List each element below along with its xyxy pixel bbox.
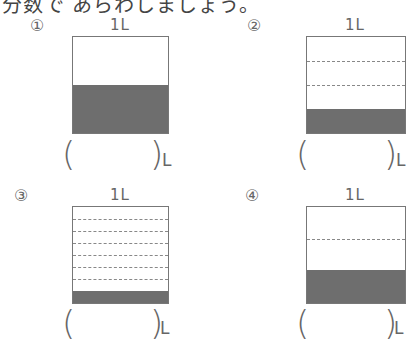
division-line	[307, 61, 405, 62]
division-line	[73, 267, 168, 268]
problem-number: ②	[247, 16, 261, 35]
unit: L	[394, 320, 403, 337]
unit: L	[396, 152, 405, 169]
open-paren: (	[296, 306, 309, 340]
division-line	[73, 231, 168, 232]
filled-portion	[307, 270, 405, 303]
unit-label: 1L	[110, 16, 130, 34]
measuring-box	[72, 36, 169, 134]
answer-field[interactable]	[314, 310, 384, 340]
division-line	[73, 255, 168, 256]
division-line	[307, 239, 405, 240]
open-paren: (	[62, 306, 75, 340]
unit: L	[162, 152, 171, 169]
answer-field[interactable]	[80, 310, 150, 340]
open-paren: (	[62, 137, 75, 171]
filled-portion	[73, 291, 168, 303]
problem-number: ①	[30, 16, 44, 35]
division-line	[307, 85, 405, 86]
unit-label: 1L	[345, 186, 365, 204]
unit-label: 1L	[345, 16, 365, 34]
filled-portion	[307, 109, 405, 133]
measuring-box	[306, 206, 406, 304]
answer-field[interactable]	[80, 142, 150, 172]
problem-number: ④	[245, 186, 259, 205]
answer-field[interactable]	[314, 142, 384, 172]
measuring-box	[72, 206, 169, 304]
unit-label: 1L	[110, 186, 130, 204]
unit: L	[160, 320, 169, 337]
problem-number: ③	[14, 186, 28, 205]
open-paren: (	[296, 137, 309, 171]
filled-portion	[73, 85, 168, 133]
division-line	[73, 243, 168, 244]
division-line	[73, 219, 168, 220]
division-line	[73, 279, 168, 280]
measuring-box	[306, 36, 406, 134]
